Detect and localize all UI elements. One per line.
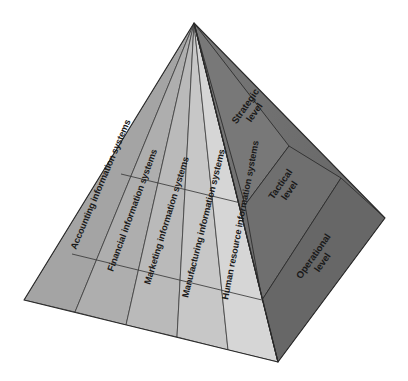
- pyramid-svg: Accounting information systems Financial…: [0, 0, 408, 381]
- pyramid-diagram: Accounting information systems Financial…: [0, 0, 408, 381]
